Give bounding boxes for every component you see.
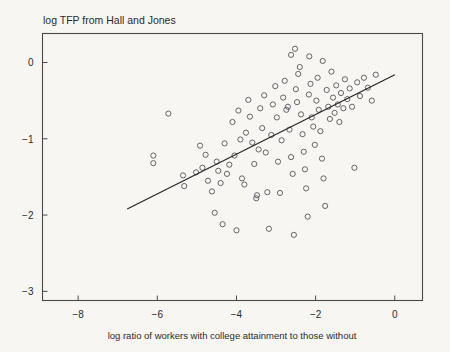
scatter-chart-figure: log TFP from Hall and Jones 0−1−2−3 −8−6…	[0, 0, 450, 352]
x-tick-label: −6	[152, 309, 164, 320]
x-tick-label: −8	[72, 309, 84, 320]
y-tick-label: −3	[22, 286, 34, 297]
x-tick-label: −4	[231, 309, 243, 320]
y-tick-label: −2	[22, 210, 34, 221]
x-tick-label: 0	[392, 309, 398, 320]
y-tick-label: −1	[22, 134, 34, 145]
chart-title: log TFP from Hall and Jones	[43, 14, 176, 26]
y-tick-label: 0	[28, 57, 34, 68]
x-tick-label: −2	[310, 309, 322, 320]
x-axis-title: log ratio of workers with college attain…	[108, 330, 357, 341]
